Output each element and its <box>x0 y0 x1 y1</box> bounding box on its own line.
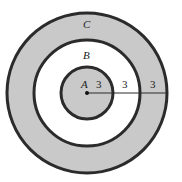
region-label-c: C <box>83 18 91 30</box>
diagram-canvas: C B A 3 3 3 <box>0 0 182 182</box>
segment-label-outer: 3 <box>150 78 156 90</box>
concentric-circles-diagram: C B A 3 3 3 <box>0 0 182 182</box>
segment-label-middle: 3 <box>122 78 128 90</box>
region-label-a: A <box>80 78 88 90</box>
center-point <box>85 91 89 95</box>
segment-label-inner: 3 <box>96 78 102 90</box>
region-label-b: B <box>83 49 90 61</box>
